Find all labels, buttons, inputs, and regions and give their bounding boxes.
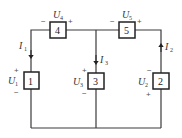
svg-text:4: 4: [55, 25, 60, 36]
svg-text:−: −: [41, 17, 46, 26]
svg-text:−: −: [82, 89, 87, 98]
svg-text:3: 3: [80, 82, 83, 88]
svg-text:5: 5: [129, 15, 132, 21]
svg-text:1: 1: [28, 76, 33, 87]
svg-text:2: 2: [158, 76, 163, 87]
svg-text:+: +: [68, 17, 73, 26]
svg-text:2: 2: [170, 47, 173, 53]
svg-text:4: 4: [60, 15, 63, 21]
current-i2: I 2: [161, 41, 173, 53]
svg-text:−: −: [14, 88, 19, 97]
element-4: 4 U 4 − +: [41, 9, 73, 38]
element-5: 5 U 5 − +: [110, 9, 142, 38]
svg-text:1: 1: [24, 46, 27, 52]
svg-text:I: I: [99, 54, 104, 65]
svg-text:+: +: [14, 66, 19, 75]
element-1: 1 U 1 + −: [8, 66, 39, 97]
circuit-diagram: I 1 I 3 I 2 4 U 4 − + 5 U 5 − + 1 U 1 + …: [0, 0, 182, 138]
svg-text:2: 2: [145, 82, 148, 88]
svg-text:−: −: [147, 66, 152, 75]
svg-text:I: I: [164, 41, 169, 52]
svg-text:3: 3: [105, 60, 108, 66]
element-2: 2 U 2 − +: [138, 66, 169, 99]
element-3: 3 U 3 + −: [73, 66, 104, 98]
svg-text:+: +: [82, 66, 87, 75]
svg-text:I: I: [18, 40, 23, 51]
current-i1: I 1: [18, 40, 31, 57]
svg-text:+: +: [137, 17, 142, 26]
current-i3: I 3: [96, 54, 108, 66]
svg-text:−: −: [110, 17, 115, 26]
svg-text:5: 5: [124, 25, 129, 36]
svg-text:1: 1: [15, 81, 18, 87]
svg-text:3: 3: [93, 76, 98, 87]
svg-text:+: +: [146, 90, 151, 99]
